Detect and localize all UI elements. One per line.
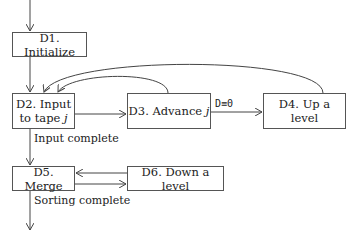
node-d3-advance: D3. Advance j [127, 93, 211, 129]
edge-label-sorting-complete: Sorting complete [34, 194, 130, 207]
node-d6-down-a-level: D6. Down a level [127, 166, 224, 191]
var-j: j [64, 111, 68, 125]
node-d5-merge: D5. Merge [12, 166, 75, 191]
node-d2-input-to-tape: D2. Input to tape j [12, 93, 75, 129]
node-d5-label: D5. Merge [13, 165, 74, 193]
node-d2-label-line2: to tape j [19, 111, 67, 125]
edge-label-input-complete: Input complete [34, 132, 119, 145]
node-d4-label: D4. Up a level [264, 97, 345, 125]
node-d1-label: D1. Initialize [13, 31, 86, 59]
edge-d4-d2 [44, 64, 323, 93]
var-j: j [206, 104, 210, 118]
edge-label-d-equiv-zero: D≡0 [215, 98, 233, 109]
node-d1-initialize: D1. Initialize [12, 32, 87, 57]
node-d6-label: D6. Down a level [128, 165, 223, 193]
edge-d3-d2 [58, 76, 168, 93]
node-d4-up-a-level: D4. Up a level [263, 93, 346, 129]
node-d3-label: D3. Advance j [129, 104, 210, 118]
node-d2-label-line1: D2. Input [16, 97, 71, 111]
